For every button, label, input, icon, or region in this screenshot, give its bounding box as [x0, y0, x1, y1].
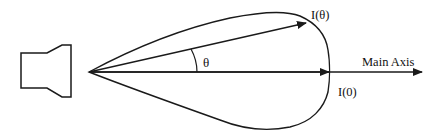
angle-label: θ [203, 55, 209, 70]
intensity-zero-label: I(0) [338, 85, 357, 99]
radiation-pattern-diagram: θ I(θ) Main Axis I(0) [0, 0, 440, 139]
speaker-icon [21, 45, 71, 97]
intensity-theta-label: I(θ) [311, 8, 329, 22]
radiation-lobe [89, 12, 330, 129]
angle-arc [191, 49, 197, 72]
main-axis-label: Main Axis [362, 55, 415, 69]
intensity-theta-arrow [89, 23, 306, 72]
